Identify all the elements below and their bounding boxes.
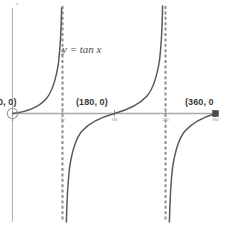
tan-function-chart: y 0 90 180 270 360 0, 0) (180, 0) (360, … — [0, 0, 227, 226]
annotation-360-point: (360, 0 — [185, 98, 214, 107]
plot-area — [0, 0, 227, 226]
tick-label-0: 0 — [11, 118, 13, 122]
equation-label: y = tan x — [62, 44, 102, 55]
tick-label-90: 90 — [60, 118, 64, 122]
annotation-origin-point: 0, 0) — [0, 98, 17, 107]
y-axis-label: y — [16, 1, 18, 6]
tan-branch-270-360 — [169, 114, 215, 223]
annotation-180-point: (180, 0) — [76, 98, 108, 107]
tick-label-180: 180 — [111, 118, 118, 122]
tick-label-360: 360 — [212, 118, 219, 122]
point-marker-360 — [213, 111, 219, 117]
tan-branch-0-90 — [13, 8, 62, 114]
tick-label-270: 270 — [162, 118, 169, 122]
